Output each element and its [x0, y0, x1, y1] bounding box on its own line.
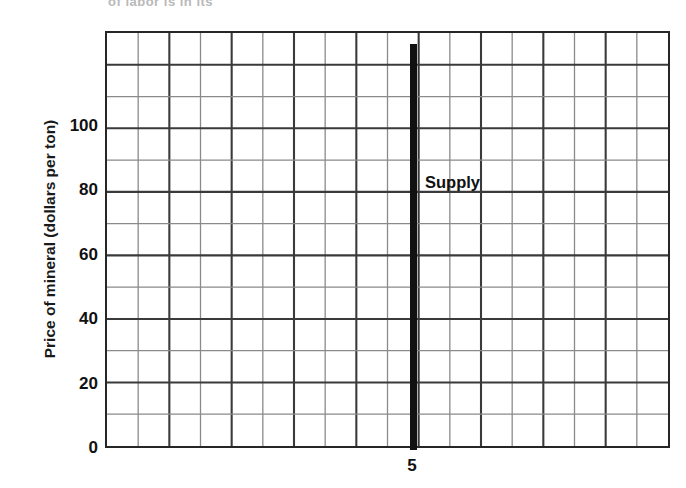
x-tick-label-5: 5: [392, 456, 432, 476]
y-axis-title: Price of mineral (dollars per ton): [41, 89, 59, 389]
y-tick-label: 100: [48, 117, 98, 134]
supply-curve-line: [410, 44, 417, 450]
supply-series-label: Supply: [425, 173, 480, 192]
clipped-caption-text: of labor is in its: [108, 0, 568, 6]
plot-area: Supply: [105, 31, 670, 448]
y-tick-label: 60: [48, 246, 98, 263]
y-tick-label: 40: [48, 310, 98, 327]
grid-lines: [107, 33, 668, 446]
y-tick-label: 80: [48, 181, 98, 198]
y-tick-label: 20: [48, 375, 98, 392]
y-tick-label: 0: [48, 439, 98, 456]
supply-curve-chart: of labor is in its Price of mineral (dol…: [0, 0, 686, 488]
